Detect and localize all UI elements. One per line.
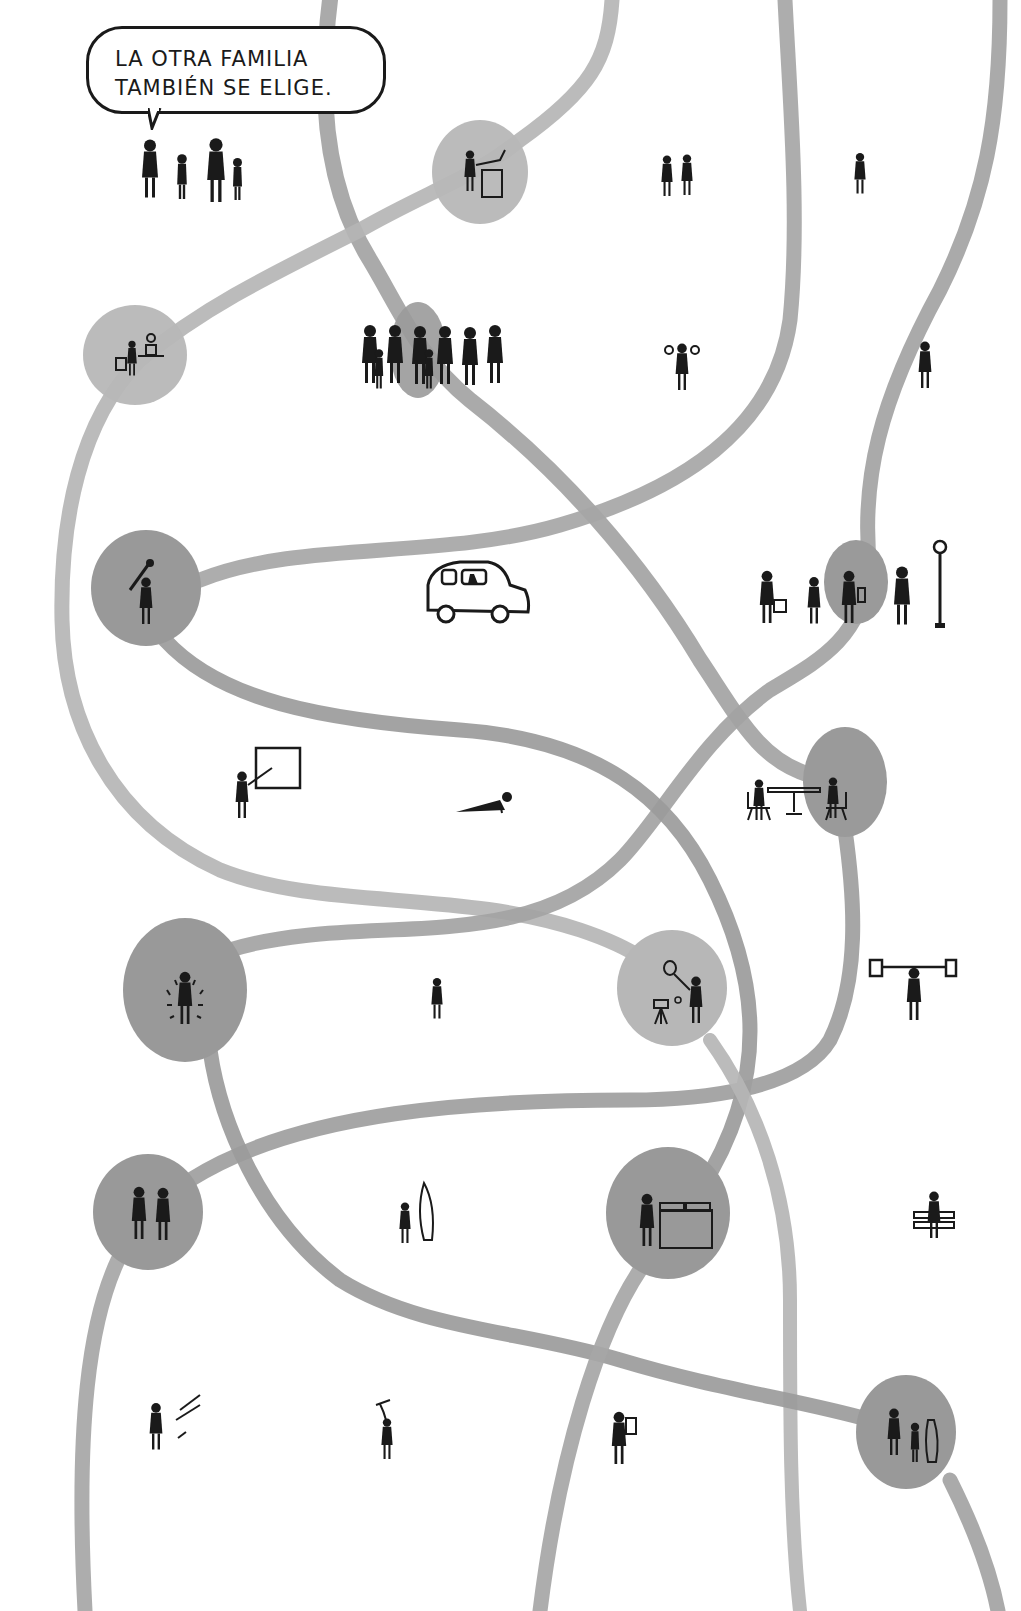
person-pushup-icon <box>456 792 512 813</box>
node-couple <box>93 1154 203 1270</box>
path-d <box>230 0 1000 950</box>
person-on-bench-icon <box>914 1192 954 1238</box>
node-trio <box>856 1375 956 1489</box>
path-a <box>325 0 810 775</box>
two-at-table-icon <box>748 777 846 820</box>
standing-person-icon <box>431 978 442 1019</box>
person-sliding-icon <box>150 1395 200 1450</box>
person-at-board-icon <box>236 748 300 818</box>
family-of-four-icon <box>142 138 242 202</box>
person-with-surfboard-icon <box>399 1183 433 1243</box>
path-g <box>710 1040 800 1611</box>
two-people-icon <box>661 154 692 196</box>
node-bus-stop <box>824 540 888 624</box>
speech-line-1: LA OTRA FAMILIA <box>115 45 383 74</box>
node-tennis <box>617 930 727 1046</box>
weightlifter-icon <box>870 960 956 1020</box>
node-vending <box>432 120 528 224</box>
node-cafe <box>803 727 887 837</box>
single-person-icon <box>854 153 865 194</box>
nodes <box>83 120 956 1489</box>
car-driver-icon <box>428 562 529 622</box>
person-reading-icon <box>612 1412 636 1464</box>
bus-stop-pole-icon <box>934 541 946 628</box>
figures <box>116 138 956 1464</box>
person-with-kite-icon <box>376 1400 393 1459</box>
speech-bubble: LA OTRA FAMILIA TAMBIÉN SE ELIGE. <box>86 26 386 114</box>
person-waving-icon <box>919 342 932 388</box>
illustration-canvas <box>0 0 1021 1611</box>
speech-line-2: TAMBIÉN SE ELIGE. <box>115 74 383 103</box>
person-arms-raised-icon <box>665 344 699 390</box>
path-i <box>82 1260 118 1611</box>
path-k <box>950 1480 998 1611</box>
speech-bubble-tail <box>148 108 162 130</box>
